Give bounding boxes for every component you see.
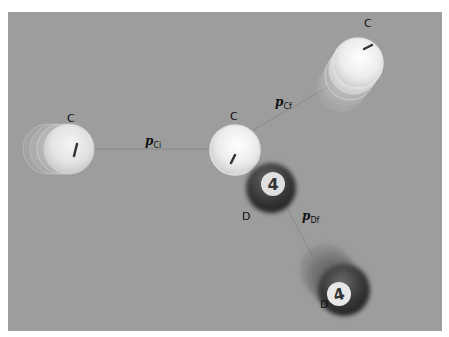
label-p-ci: pCi: [145, 135, 161, 150]
label-p-df: pDf: [302, 210, 319, 225]
label-d-final: D: [320, 299, 328, 310]
cue-ball-initial-ghosts: [23, 124, 94, 174]
label-c-final: C: [364, 18, 372, 29]
label-c-initial: C: [67, 113, 75, 124]
label-c-collision: C: [230, 111, 238, 122]
scene-graphics: 4 4: [8, 12, 442, 331]
svg-text:4: 4: [267, 175, 278, 194]
cue-ball-final: [317, 38, 383, 112]
label-p-cf: pCf: [275, 96, 292, 111]
label-d-collision: D: [242, 211, 250, 222]
four-ball-collision: 4: [246, 163, 296, 213]
collision-scene: 4 4 C C C D D pCi pCf pDf: [8, 12, 442, 331]
four-ball-final: 4: [300, 244, 370, 316]
cue-ball-collision: [210, 125, 260, 175]
